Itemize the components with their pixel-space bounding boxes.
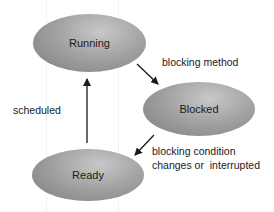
edge-label-blocking-method: blocking method	[162, 56, 238, 69]
edge-label-scheduled: scheduled	[13, 104, 61, 117]
state-diagram: Running Blocked Ready blocking method bl…	[0, 0, 274, 212]
edge-label-blocking-condition-line1: blocking condition	[152, 145, 235, 158]
arrow-running-to-blocked	[137, 64, 158, 84]
edge-label-blocking-condition-line2: changes or interrupted	[152, 159, 260, 172]
